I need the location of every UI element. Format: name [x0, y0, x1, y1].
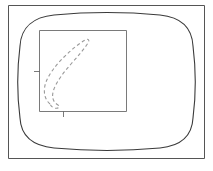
figure-canvas: [0, 0, 213, 171]
figure-background: [0, 0, 213, 171]
figure-root: [0, 0, 213, 171]
